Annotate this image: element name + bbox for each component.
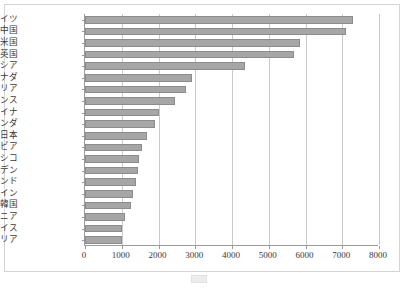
- bar: [85, 190, 133, 198]
- bar: [85, 236, 122, 244]
- x-axis-tick: [306, 246, 307, 249]
- category-label: ウクライナ: [0, 108, 18, 117]
- category-label: オーストリア: [0, 235, 18, 244]
- bar: [85, 16, 353, 24]
- category-label: 中国: [0, 26, 18, 35]
- bar: [85, 109, 159, 117]
- x-axis-tick: [122, 246, 123, 249]
- category-label: ドイツ: [0, 15, 18, 24]
- legend-swatch: [191, 275, 207, 283]
- gridline: [159, 14, 160, 245]
- gridline: [379, 14, 380, 245]
- gridline: [269, 14, 270, 245]
- gridline: [195, 14, 196, 245]
- category-label: サウジアラビア: [0, 142, 18, 151]
- x-axis-tick: [232, 246, 233, 249]
- category-label: フランス: [0, 96, 18, 105]
- y-axis-tick: [82, 20, 85, 21]
- x-tick-label: 5000: [248, 250, 288, 260]
- bar: [85, 28, 346, 36]
- bar: [85, 144, 142, 152]
- bar: [85, 225, 122, 233]
- bar: [85, 167, 138, 175]
- x-axis-tick: [342, 246, 343, 249]
- x-tick-label: 7000: [321, 250, 361, 260]
- y-axis-tick: [82, 217, 85, 218]
- x-tick-label: 6000: [285, 250, 325, 260]
- x-tick-label: 0: [64, 250, 104, 260]
- x-axis-tick: [379, 246, 380, 249]
- y-axis-tick: [82, 159, 85, 160]
- bar: [85, 202, 131, 210]
- category-label: 日本: [0, 131, 18, 140]
- y-axis-tick: [82, 194, 85, 195]
- bar: [85, 120, 155, 128]
- y-axis-tick: [82, 101, 85, 102]
- bar: [85, 74, 192, 82]
- x-tick-label: 2000: [138, 250, 178, 260]
- y-axis-tick: [82, 182, 85, 183]
- x-tick-label: 4000: [211, 250, 251, 260]
- y-axis-tick: [82, 43, 85, 44]
- bar: [85, 97, 175, 105]
- gridline: [122, 14, 123, 245]
- gridline: [232, 14, 233, 245]
- x-axis-tick: [195, 246, 196, 249]
- category-label: オランダ: [0, 119, 18, 128]
- y-axis-tick: [82, 31, 85, 32]
- y-axis-tick: [82, 147, 85, 148]
- chart-figure: ドイツ中国米国英国ロシアカナダイタリアフランスウクライナオランダ日本サウジアラビ…: [0, 0, 404, 288]
- category-label: メキシコ: [0, 154, 18, 163]
- category-label: スウェーデン: [0, 166, 18, 175]
- category-label: 米国: [0, 38, 18, 47]
- plot-area: [84, 14, 378, 246]
- category-label: 韓国: [0, 200, 18, 209]
- y-axis-tick: [82, 89, 85, 90]
- y-axis-tick: [82, 205, 85, 206]
- y-axis-tick: [82, 171, 85, 172]
- category-label: スイス: [0, 224, 18, 233]
- y-axis-tick: [82, 229, 85, 230]
- category-label: スペイン: [0, 189, 18, 198]
- bar: [85, 51, 294, 59]
- y-axis-tick: [82, 136, 85, 137]
- bar: [85, 62, 245, 70]
- gridline: [306, 14, 307, 245]
- x-tick-label: 1000: [101, 250, 141, 260]
- category-label: ルーマニア: [0, 212, 18, 221]
- y-axis-tick: [82, 78, 85, 79]
- x-tick-label: 3000: [174, 250, 214, 260]
- category-label: ロシア: [0, 61, 18, 70]
- bar: [85, 178, 136, 186]
- bar: [85, 213, 125, 221]
- y-axis-tick: [82, 66, 85, 67]
- gridline: [342, 14, 343, 245]
- y-axis-tick: [82, 240, 85, 241]
- x-tick-label: 8000: [358, 250, 398, 260]
- bar: [85, 86, 186, 94]
- x-axis-tick: [159, 246, 160, 249]
- y-axis-tick: [82, 124, 85, 125]
- chart-caption: [0, 274, 404, 288]
- bar: [85, 155, 139, 163]
- x-axis-tick: [85, 246, 86, 249]
- y-axis-tick: [82, 113, 85, 114]
- y-axis-tick: [82, 55, 85, 56]
- bar: [85, 39, 300, 47]
- category-label: インド: [0, 177, 18, 186]
- category-label: 英国: [0, 50, 18, 59]
- x-axis-tick: [269, 246, 270, 249]
- category-label: イタリア: [0, 84, 18, 93]
- category-label: カナダ: [0, 73, 18, 82]
- bar: [85, 132, 147, 140]
